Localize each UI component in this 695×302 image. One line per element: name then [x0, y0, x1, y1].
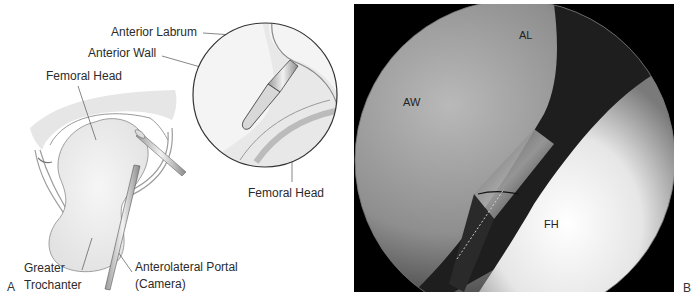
illustration-panel-a — [0, 0, 345, 302]
label-anterior-wall: Anterior Wall — [88, 47, 156, 60]
label-femoral-head-left: Femoral Head — [46, 70, 122, 83]
arthroscopic-photo-panel-b: AL AW FH — [354, 4, 674, 292]
label-aw: AW — [403, 96, 420, 108]
magnified-view — [193, 20, 345, 170]
femur-shape — [49, 119, 148, 272]
label-al: AL — [519, 29, 532, 41]
label-portal-line2: (Camera) — [135, 278, 186, 291]
label-trochanter: Trochanter — [24, 279, 82, 292]
label-anterior-labrum: Anterior Labrum — [111, 26, 197, 39]
panel-letter-b: B — [683, 281, 691, 295]
label-portal-line1: Anterolateral Portal — [135, 261, 238, 274]
panel-letter-a: A — [7, 280, 15, 294]
label-femoral-head-right: Femoral Head — [248, 187, 324, 200]
label-greater: Greater — [24, 262, 65, 275]
label-fh: FH — [544, 218, 559, 230]
scope-view — [354, 4, 674, 292]
